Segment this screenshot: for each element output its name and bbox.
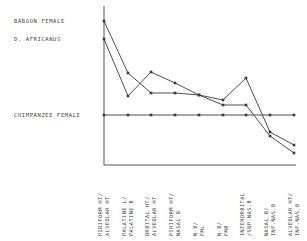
data-point-marker [293, 144, 296, 147]
data-point-marker [174, 82, 177, 85]
data-point-marker [174, 92, 177, 95]
x-tick-label: PALATINE L/ PALATINE B [121, 170, 135, 236]
x-tick-label: PIRIFORM HT/ NASAL B [168, 170, 182, 236]
data-point-marker [150, 92, 153, 95]
x-tick-label: NASAL B/ INF.NAS.B [263, 170, 277, 236]
x-tick-label: N-B/ FML [192, 170, 206, 236]
data-point-marker [245, 114, 248, 117]
data-point-marker [222, 114, 225, 117]
x-tick-label: ORBITAL HT/ ALVEOLAR HT [144, 170, 158, 236]
series-line-d-africanus [104, 39, 294, 145]
data-point-marker [198, 94, 201, 97]
data-point-marker [150, 71, 153, 74]
data-point-marker [222, 99, 225, 102]
data-point-marker [245, 104, 248, 107]
data-point-marker [150, 114, 153, 117]
x-tick-label: INTERORBITAL /SUP.NAS.B [239, 170, 253, 236]
data-point-marker [103, 20, 106, 23]
series-line-baboon-female [104, 21, 294, 153]
data-point-marker [269, 135, 272, 138]
data-point-marker [198, 114, 201, 117]
data-point-marker [103, 114, 106, 117]
data-point-marker [127, 72, 130, 75]
x-tick-label: ALVEOLAR HT/ INF.NAS.B [287, 170, 301, 236]
x-tick-label: PIRIFORM HT/ ALVEOLAR HT [97, 170, 111, 236]
data-point-marker [222, 104, 225, 107]
data-point-marker [103, 38, 106, 41]
data-point-marker [245, 77, 248, 80]
data-point-marker [269, 131, 272, 134]
x-tick-label: N-B/ FMB [216, 170, 230, 236]
data-point-marker [293, 114, 296, 117]
data-point-marker [127, 95, 130, 98]
data-point-marker [293, 152, 296, 155]
data-point-marker [269, 114, 272, 117]
data-point-marker [127, 114, 130, 117]
data-point-marker [174, 114, 177, 117]
